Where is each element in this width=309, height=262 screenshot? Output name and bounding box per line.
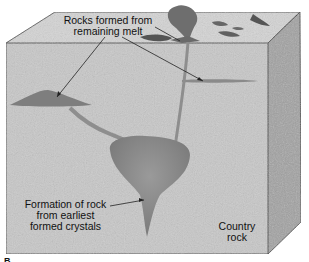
side-face xyxy=(268,12,301,254)
label-earliest-crystals: Formation of rock from earliest formed c… xyxy=(18,199,113,232)
label-country-rock: Country rock xyxy=(212,221,262,243)
label-remaining-melt: Rocks formed from remaining melt xyxy=(58,15,158,37)
panel-letter: B xyxy=(4,256,11,262)
